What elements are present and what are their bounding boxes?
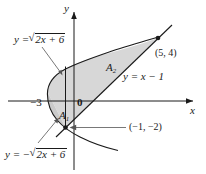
label-axis-x: x: [190, 105, 195, 116]
label-curve-upper-lhs: y =: [14, 33, 29, 45]
point-marker-5-4: [156, 36, 161, 41]
label-area-2-subscript: 2: [113, 67, 116, 74]
label-line-equation: y = x − 1: [123, 71, 164, 82]
label-curve-lower-lhs: y = −: [5, 148, 30, 160]
label-origin: 0: [77, 97, 83, 108]
leader-line-upper-curve: [42, 47, 61, 73]
label-curve-upper-radicand: 2x + 6: [35, 33, 66, 45]
point-marker-minus1-minus2: [63, 125, 68, 130]
label-area-2-base: A: [106, 61, 113, 73]
math-figure: y =2x + 6 y = −2x + 6 y = x − 1 (5, 4) (…: [0, 0, 206, 174]
radical-symbol-upper: 2x + 6: [29, 33, 65, 45]
label-axis-y: y: [64, 3, 69, 14]
label-curve-lower: y = −2x + 6: [5, 148, 67, 160]
label-area-1: A1: [59, 110, 69, 123]
leader-line-lower-curve: [38, 120, 57, 143]
label-curve-lower-radicand: 2x + 6: [36, 148, 67, 160]
label-area-1-subscript: 1: [66, 115, 69, 122]
label-point-upper: (5, 4): [155, 48, 177, 58]
label-area-1-base: A: [59, 109, 66, 121]
x-axis-arrowhead: [186, 98, 193, 104]
label-x-intercept: −3: [30, 97, 42, 108]
label-curve-upper: y =2x + 6: [14, 33, 65, 45]
radical-symbol-lower: 2x + 6: [30, 148, 66, 160]
label-area-2: A2: [106, 62, 116, 75]
label-point-lower: (−1, −2): [129, 122, 162, 132]
y-axis-arrowhead: [71, 12, 77, 19]
leader-arrowhead-point-minus1-minus2: [70, 125, 77, 130]
